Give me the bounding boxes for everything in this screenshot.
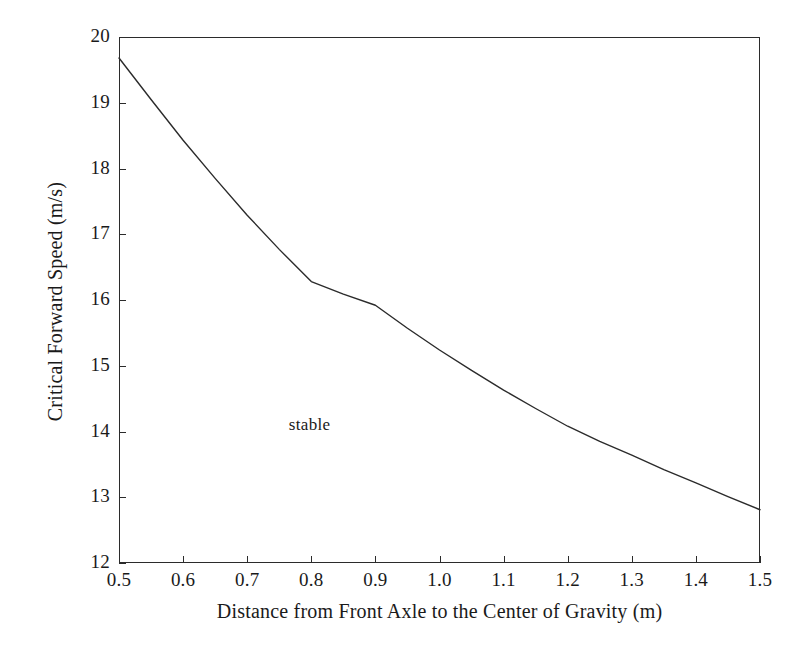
x-tick-mark (504, 556, 505, 563)
x-tick-mark (440, 556, 441, 563)
y-tick-mark (119, 103, 126, 104)
data-series-line (119, 58, 760, 510)
x-tick-mark (568, 556, 569, 563)
x-tick-label: 0.8 (281, 568, 341, 592)
y-axis-tick-labels: 121314151617181920 (66, 0, 110, 662)
x-tick-label: 1.0 (410, 568, 470, 592)
x-tick-mark (632, 556, 633, 563)
x-tick-mark (760, 556, 761, 563)
figure-canvas: 0.50.60.70.80.91.01.11.21.31.41.5 121314… (0, 0, 809, 662)
y-tick-mark (119, 563, 126, 564)
x-tick-label: 0.7 (217, 568, 277, 592)
x-tick-label: 1.2 (538, 568, 598, 592)
x-tick-label: 0.9 (345, 568, 405, 592)
y-tick-mark (119, 300, 126, 301)
region-label-stable: stable (289, 415, 330, 435)
x-tick-mark (375, 556, 376, 563)
x-axis-title: Distance from Front Axle to the Center o… (119, 600, 760, 623)
x-tick-label: 1.1 (474, 568, 534, 592)
x-tick-label: 1.5 (730, 568, 790, 592)
y-tick-mark (119, 169, 126, 170)
y-tick-label: 18 (70, 158, 110, 178)
y-tick-label: 17 (70, 223, 110, 243)
y-tick-mark (119, 366, 126, 367)
y-tick-label: 15 (70, 355, 110, 375)
x-tick-mark (311, 556, 312, 563)
x-tick-mark (696, 556, 697, 563)
y-tick-label: 12 (70, 552, 110, 572)
x-tick-mark (183, 556, 184, 563)
y-tick-label: 16 (70, 289, 110, 309)
x-tick-mark (119, 556, 120, 563)
curve-layer (119, 37, 760, 563)
y-tick-mark (119, 234, 126, 235)
x-tick-label: 0.6 (153, 568, 213, 592)
y-tick-mark (119, 497, 126, 498)
y-tick-label: 19 (70, 92, 110, 112)
y-tick-label: 13 (70, 486, 110, 506)
x-tick-label: 1.3 (602, 568, 662, 592)
x-tick-label: 1.4 (666, 568, 726, 592)
y-tick-mark (119, 432, 126, 433)
y-axis-title: Critical Forward Speed (m/s) (44, 42, 67, 562)
y-tick-mark (119, 37, 126, 38)
y-tick-label: 20 (70, 26, 110, 46)
x-tick-mark (247, 556, 248, 563)
y-tick-label: 14 (70, 421, 110, 441)
